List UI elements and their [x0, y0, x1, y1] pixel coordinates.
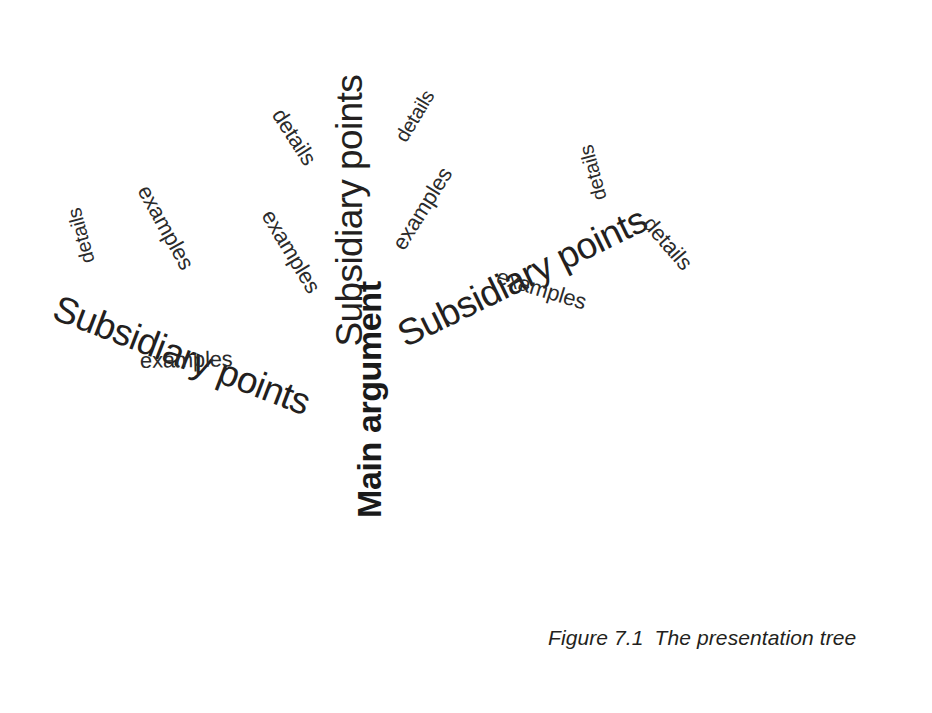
twig-left-details: details: [64, 206, 98, 266]
twig-right-details-upper-label: details: [575, 143, 611, 203]
twig-center-examples-left-label: examples: [257, 205, 326, 297]
figure-caption-number: Figure 7.1: [548, 626, 644, 649]
twig-center-details-left: details: [268, 105, 320, 169]
twig-center-examples-right: examples: [389, 164, 457, 254]
twig-right-details-outer-label: details: [638, 211, 698, 274]
twig-left-examples-lower: examples: [140, 348, 233, 372]
twig-center-details-right: details: [391, 86, 437, 145]
twig-center-examples-left: examples: [258, 206, 325, 297]
twig-left-examples-upper-label: examples: [133, 181, 200, 274]
figure-caption-text: The presentation tree: [655, 626, 857, 649]
branch-center-subsidiary-points: Subsidiary points: [331, 75, 368, 347]
presentation-tree-figure: Main argument Subsidiary points details …: [0, 0, 932, 713]
twig-right-details-upper: details: [576, 143, 610, 203]
twig-left-examples-upper: examples: [133, 182, 197, 274]
twig-right-details-outer: details: [639, 213, 696, 274]
figure-caption: Figure 7.1The presentation tree: [548, 626, 856, 650]
twig-left-examples-lower-label: examples: [140, 346, 233, 373]
branch-center-label: Subsidiary points: [329, 75, 370, 347]
twig-center-details-left-label: details: [267, 104, 322, 170]
twig-left-details-label: details: [63, 206, 99, 266]
twig-center-examples-right-label: examples: [387, 163, 457, 255]
twig-center-details-right-label: details: [391, 86, 439, 146]
